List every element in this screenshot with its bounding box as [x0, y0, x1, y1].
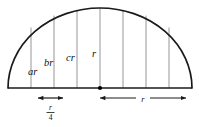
- dimension-label-quarter-r-denominator: 4: [49, 113, 53, 122]
- chord-label-ar: ar: [28, 66, 38, 77]
- diagram-canvas: ar br cr r r 4 r: [0, 0, 199, 127]
- chord-label-br: br: [44, 57, 54, 68]
- dimension-quarter-r: r 4: [38, 98, 63, 122]
- chord-label-cr: cr: [66, 52, 76, 63]
- dimension-label-quarter-r-numerator: r: [49, 103, 52, 112]
- chord-label-r: r: [92, 48, 97, 59]
- dimension-radius-r: r: [100, 92, 186, 104]
- semicircle-diagram: ar br cr r r 4 r: [0, 0, 199, 127]
- center-point-dot: [98, 86, 102, 90]
